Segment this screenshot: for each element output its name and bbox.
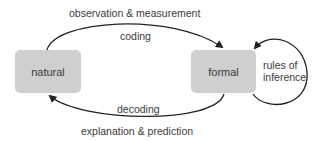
natural-node-label: natural <box>31 66 65 78</box>
natural-node: natural <box>15 50 81 93</box>
inference-line: inference <box>263 71 320 83</box>
decoding-label: decoding <box>117 103 160 115</box>
rules-of-line: rules of <box>263 59 320 71</box>
explanation-prediction-label: explanation & prediction <box>81 125 193 137</box>
formal-node: formal <box>191 50 256 93</box>
coding-label: coding <box>120 30 151 42</box>
rules-of-inference-label: rules of inference <box>263 59 320 83</box>
observation-measurement-label: observation & measurement <box>69 7 200 19</box>
formal-node-label: formal <box>208 66 239 78</box>
